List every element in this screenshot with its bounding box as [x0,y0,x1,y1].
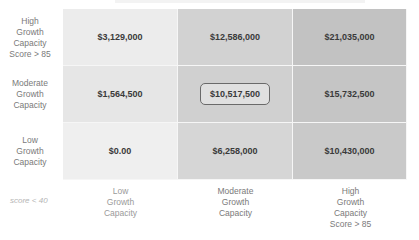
x-label-line: Moderate [178,186,293,197]
cell-value: $0.00 [109,146,132,156]
y-label-line: Low [0,135,60,146]
heatmap-cell: $15,732,500 [293,66,407,123]
x-label-line: Growth [63,197,178,208]
heatmap-cell: $0.00 [63,123,178,180]
x-label-low: Low Growth Capacity [63,186,178,219]
x-label-line: High [293,186,408,197]
x-label-high: High Growth Capacity Score > 85 [293,186,408,230]
y-label-line: High [0,16,60,27]
y-label-line: Capacity [0,38,60,49]
x-label-line: Capacity [178,208,293,219]
y-label-low: Low Growth Capacity [0,135,60,168]
clipped-title [115,0,365,3]
cell-value: $12,586,000 [210,32,260,42]
heatmap-cell: $10,430,000 [293,123,407,180]
cell-value: $15,732,500 [324,89,374,99]
y-label-line: Growth [0,27,60,38]
y-label-line: Moderate [0,78,60,89]
y-label-high: High Growth Capacity Score > 85 [0,16,60,60]
cell-value: $6,258,000 [212,146,257,156]
cell-value: $3,129,000 [97,32,142,42]
x-label-line: Capacity [293,208,408,219]
x-label-line: Growth [178,197,293,208]
y-label-line: Score > 85 [0,49,60,60]
y-label-line: Growth [0,89,60,100]
heatmap-cell: $21,035,000 [293,9,407,66]
heatmap-cell-highlighted: $10,517,500 [178,66,293,123]
x-label-line: Low [63,186,178,197]
cell-value-highlighted: $10,517,500 [200,83,270,105]
heatmap-grid: $3,129,000 $12,586,000 $21,035,000 $1,56… [63,9,407,180]
heatmap-cell: $12,586,000 [178,9,293,66]
heatmap-cell: $6,258,000 [178,123,293,180]
x-label-moderate: Moderate Growth Capacity [178,186,293,219]
cell-value: $21,035,000 [324,32,374,42]
y-label-line: Capacity [0,157,60,168]
heatmap-cell: $1,564,500 [63,66,178,123]
x-label-line: Capacity [63,208,178,219]
y-label-line: Growth [0,146,60,157]
corner-label: score < 40 [10,196,48,205]
x-label-line: Score > 85 [293,219,408,230]
cell-value: $1,564,500 [97,89,142,99]
heatmap-cell: $3,129,000 [63,9,178,66]
y-label-moderate: Moderate Growth Capacity [0,78,60,111]
y-label-line: Capacity [0,100,60,111]
cell-value: $10,430,000 [324,146,374,156]
x-label-line: Growth [293,197,408,208]
